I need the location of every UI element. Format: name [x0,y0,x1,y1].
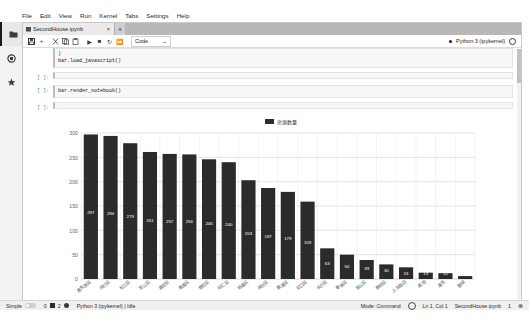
file-browser-icon[interactable] [0,22,24,46]
svg-text:150: 150 [69,203,78,209]
chevron-down-icon: ⌄ [162,38,167,44]
x-axis-label: 长宁区 [315,278,330,292]
menu-item-run[interactable]: Run [80,12,91,19]
tab-secondhouse-ipynb[interactable]: SecondHouse.ipynb × [23,23,115,35]
bar-value-label: 6 [464,271,467,276]
bar [84,134,98,279]
terminal-icon [50,303,55,308]
notebook-scroll-area[interactable]: ) bar.load_javascript() [ ]: [ ]: bar.re… [23,48,521,304]
kernel-name: Python 3 (ipykernel) [456,38,505,44]
menu-item-kernel[interactable]: Kernel [99,12,117,19]
restart-kernel-button[interactable]: ↻ [105,36,114,47]
bar [222,162,236,279]
kernel-icon [64,303,69,308]
x-axis-label: 其他 [416,278,427,289]
kernel-sessions-group[interactable]: 0 2 [44,303,69,309]
extension-manager-icon[interactable] [0,70,22,94]
cell-empty-1[interactable]: [ ]: [23,72,521,81]
status-filename: SecondHouse.ipynb [455,303,501,309]
bar-value-label: 246 [205,221,213,226]
kernel-count: 0 [44,303,47,309]
status-bar: Simple 0 2 Python 3 (ipykernel) | Idle M… [0,300,529,310]
x-axis-label: 崇明区 [374,279,388,292]
code-editor[interactable] [53,102,513,109]
insert-cell-button[interactable]: + [37,36,46,47]
code-editor[interactable]: ) bar.load_javascript() [53,48,513,68]
notebook-panel: SecondHouse.ipynb × + + ▶ ■ ↻ ⏩ Code ⌄ [22,22,522,304]
simple-label: Simple [6,303,22,309]
kernel-indicator[interactable]: Python 3 (ipykernel) [449,38,521,45]
cell-prompt: [ ]: [23,85,53,94]
cell-prompt: [ ]: [23,102,53,111]
bar-value-label: 256 [186,219,194,224]
code-line: bar.render_notebook() [58,88,509,95]
chart-output: 房源数量 050100150200250300297浦东新区294闵行区279松… [49,115,513,304]
bar [182,154,196,279]
running-terminals-icon[interactable] [0,46,22,70]
bell-icon[interactable]: ⊗ [518,302,523,309]
menu-item-file[interactable]: File [22,12,32,19]
scrollbar-thumb[interactable] [517,49,521,83]
simple-mode-group[interactable]: Simple [6,303,36,309]
bar-value-label: 39 [364,266,369,271]
bar-value-label: 279 [127,214,135,219]
cell-render-notebook[interactable]: [ ]: bar.render_notebook() [23,85,521,98]
x-axis-label: 普陀区 [197,278,212,292]
copy-button[interactable] [61,36,70,47]
save-button[interactable] [27,36,36,47]
code-editor[interactable]: bar.render_notebook() [53,85,513,98]
x-axis-label: 黄浦区 [275,278,290,292]
x-axis-label: 金山区 [354,278,369,292]
code-editor[interactable] [53,72,513,79]
x-axis-label: 闵行区 [98,278,113,292]
x-axis-label: 浦东 [436,278,447,289]
stop-button[interactable]: ■ [95,36,104,47]
bar-value-label: 240 [225,222,233,227]
bar-value-label: 203 [245,231,253,236]
x-axis-label: 宝山区 [137,278,152,292]
menu-item-view[interactable]: View [59,12,72,19]
kernel-status-group[interactable]: Python 3 (ipykernel) | Idle [77,303,136,309]
vertical-scrollbar[interactable] [517,49,521,304]
menu-item-edit[interactable]: Edit [40,12,51,19]
svg-text:200: 200 [69,179,78,185]
x-axis-label: 松江区 [118,278,133,292]
menu-item-settings[interactable]: Settings [146,12,168,19]
simple-toggle[interactable] [25,303,36,308]
cut-button[interactable] [51,36,60,47]
paste-button[interactable] [71,36,80,47]
bar-value-label: 12 [443,271,448,276]
x-axis-label: 上海周边 [390,278,408,294]
legend-label: 房源数量 [277,118,297,125]
kernel-dot-icon [449,40,452,43]
new-tab-button[interactable]: + [115,23,125,35]
cell-type-select[interactable]: Code ⌄ [131,36,171,47]
x-axis-label: 徐汇区 [216,278,231,292]
cell-empty-2[interactable]: [ ]: [23,102,521,111]
terminal-count: 2 [58,303,61,309]
check-icon [408,302,416,310]
run-button[interactable]: ▶ [85,36,94,47]
activity-bar [0,22,23,304]
editor-mode: Mode: Command [361,303,401,309]
bar [202,159,216,279]
notification-count: 1 [508,303,511,309]
bar [163,154,177,279]
bar-value-label: 257 [166,219,174,224]
bar-value-label: 63 [325,261,330,266]
cursor-position[interactable]: Ln 1, Col 1 [423,303,448,309]
chart-legend[interactable]: 房源数量 [263,117,299,126]
menu-item-help[interactable]: Help [177,12,190,19]
close-icon[interactable]: × [106,26,110,32]
menu-bar: File Edit View Run Kernel Tabs Settings … [0,9,529,22]
svg-text:0: 0 [75,276,78,282]
bar-value-label: 297 [87,210,95,215]
bar-value-label: 187 [264,234,272,239]
bar-value-label: 50 [345,264,350,269]
cell-continuation[interactable]: ) bar.load_javascript() [23,48,521,68]
bar-value-label: 24 [404,271,409,276]
kernel-status-icon [509,38,516,45]
menu-item-tabs[interactable]: Tabs [125,12,138,19]
code-line: ) [58,51,509,58]
restart-run-all-button[interactable]: ⏩ [115,36,124,47]
